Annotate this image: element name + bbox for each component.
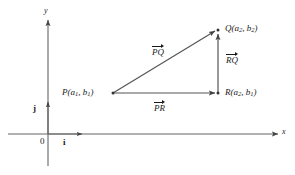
point-q-label: Q(a2, b2) [225, 24, 257, 34]
vector-pq-overbar [152, 44, 164, 48]
unit-vector-i-label: i [63, 138, 66, 147]
vector-rq-overbar [226, 52, 238, 56]
vector-pr-text: PR [154, 103, 165, 113]
vector-diagram-figure: x y 0 i j P(a1, b1) Q(a2, b2) R(a2, b1) … [0, 0, 295, 175]
point-p-label: P(a1, b1) [62, 88, 93, 98]
unit-vector-j-label: j [33, 104, 36, 113]
vector-rq-label: RQ [226, 52, 238, 65]
point-r-label: R(a2, b1) [225, 88, 256, 98]
vector-pq-text: PQ [152, 47, 164, 57]
point-p-marker [112, 92, 115, 95]
vector-pq-arrow [113, 31, 215, 93]
vector-rq-text: RQ [226, 55, 238, 65]
vector-pr-label: PR [154, 100, 165, 113]
y-axis-label: y [44, 7, 48, 15]
x-axis-label: x [282, 128, 286, 136]
point-r-marker [217, 92, 220, 95]
origin-label: 0 [40, 137, 45, 146]
vector-pq-label: PQ [152, 44, 164, 57]
vector-pr-overbar [154, 100, 165, 104]
point-q-marker [217, 29, 220, 32]
